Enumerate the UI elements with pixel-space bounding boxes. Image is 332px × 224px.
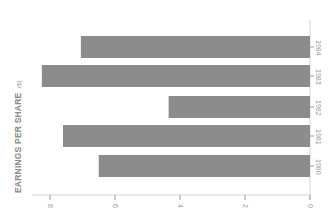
tick-label: 2 — [242, 204, 249, 208]
category-label: 1980 — [315, 159, 322, 175]
category-label: 1982 — [315, 100, 322, 116]
bar-1981 — [63, 125, 310, 147]
chart-title: EARNINGS PER SHARE ($) — [13, 80, 23, 193]
bar-1980 — [99, 155, 310, 177]
chart-title-unit: ($) — [16, 80, 22, 88]
category-labels: 19801981198219831984 — [310, 40, 322, 175]
bar-1982 — [169, 96, 310, 118]
bars — [42, 36, 310, 177]
bar-1984 — [81, 36, 310, 58]
tick-label: 8 — [47, 204, 54, 208]
tick-label: 0 — [307, 204, 314, 208]
earnings-chart: 86420 19801981198219831984 EARNINGS PER … — [0, 0, 332, 224]
category-label: 1983 — [315, 69, 322, 85]
value-axis-ticks: 86420 — [47, 195, 314, 208]
chart-title-main: EARNINGS PER SHARE — [13, 92, 23, 193]
bar-1983 — [42, 65, 310, 87]
tick-label: 6 — [112, 204, 119, 208]
category-label: 1984 — [315, 40, 322, 56]
tick-label: 4 — [177, 204, 184, 208]
category-label: 1981 — [315, 129, 322, 145]
